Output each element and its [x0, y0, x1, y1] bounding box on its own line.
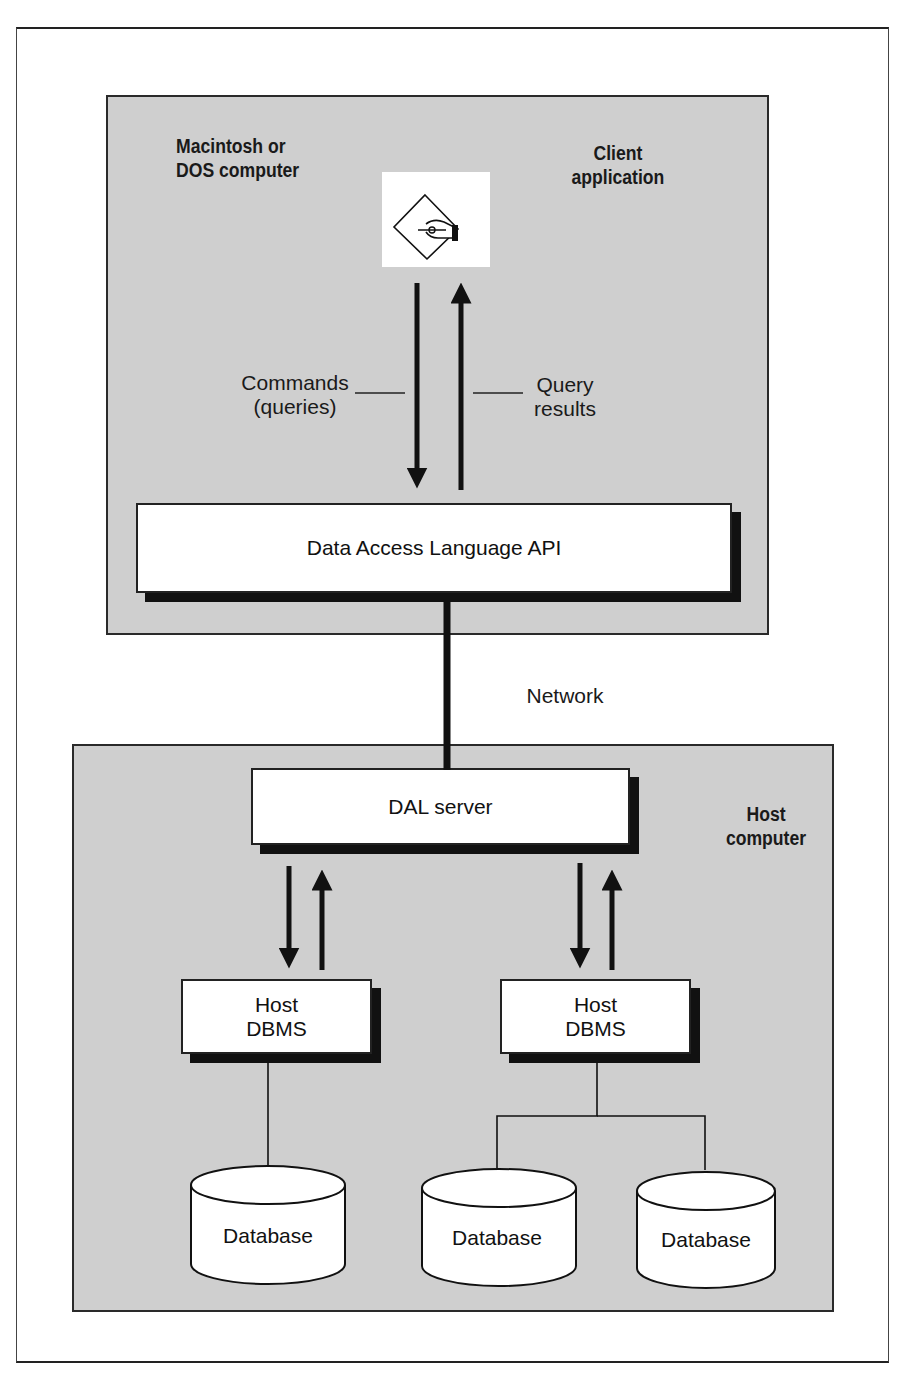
dal-server-box[interactable]: DAL server	[251, 768, 630, 845]
query-results-label: Query results	[525, 373, 605, 421]
client-application-icon-card[interactable]	[382, 172, 490, 267]
host-title-line-1: Host	[722, 802, 810, 826]
results-line-2: results	[525, 397, 605, 421]
database-label-2: Database	[427, 1226, 567, 1250]
database-label-3: Database	[636, 1228, 776, 1252]
dal-api-box[interactable]: Data Access Language API	[136, 503, 732, 593]
host-dbms-box-left[interactable]: Host DBMS	[181, 979, 372, 1054]
dbms-left-line-1: Host	[246, 993, 307, 1017]
client-title-line-1: Macintosh or	[176, 134, 299, 158]
database-label-1: Database	[198, 1224, 338, 1248]
client-app-line-2: application	[566, 165, 670, 189]
host-computer-title: Host computer	[722, 802, 810, 850]
host-title-line-2: computer	[722, 826, 810, 850]
host-dbms-box-right[interactable]: Host DBMS	[500, 979, 691, 1054]
commands-queries-label: Commands (queries)	[240, 371, 350, 419]
dal-server-label: DAL server	[388, 795, 492, 819]
commands-line-1: Commands	[240, 371, 350, 395]
pen-in-hand-diamond-icon	[382, 172, 490, 267]
client-computer-title: Macintosh or DOS computer	[176, 134, 299, 182]
client-application-label: Client application	[566, 141, 670, 189]
client-app-line-1: Client	[566, 141, 670, 165]
network-label: Network	[520, 684, 610, 708]
dbms-right-line-1: Host	[565, 993, 626, 1017]
dbms-left-line-2: DBMS	[246, 1017, 307, 1041]
dbms-right-line-2: DBMS	[565, 1017, 626, 1041]
network-label-text: Network	[526, 684, 603, 707]
dal-api-label: Data Access Language API	[307, 536, 562, 560]
commands-line-2: (queries)	[240, 395, 350, 419]
client-title-line-2: DOS computer	[176, 158, 299, 182]
results-line-1: Query	[525, 373, 605, 397]
